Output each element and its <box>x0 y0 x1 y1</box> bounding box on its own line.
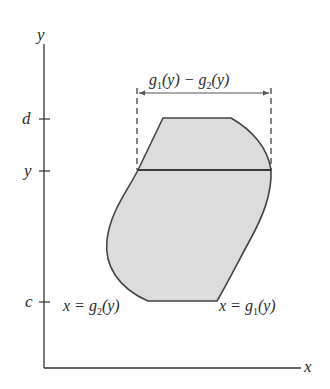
shaded-region <box>107 118 271 301</box>
right-curve-label: x = g1(y) <box>218 297 276 317</box>
width-arrow <box>139 91 269 96</box>
tick-label-y: y <box>22 161 32 180</box>
tick-label-c: c <box>25 292 33 311</box>
region-diagram: g1(y) − g2(y) y x d y c x = g2(y) x = g1… <box>0 0 330 389</box>
y-axis-label: y <box>35 25 45 44</box>
tick-label-d: d <box>22 109 31 128</box>
width-label: g1(y) − g2(y) <box>149 71 229 91</box>
left-curve-label: x = g2(y) <box>62 297 120 317</box>
x-axis-label: x <box>303 357 312 376</box>
